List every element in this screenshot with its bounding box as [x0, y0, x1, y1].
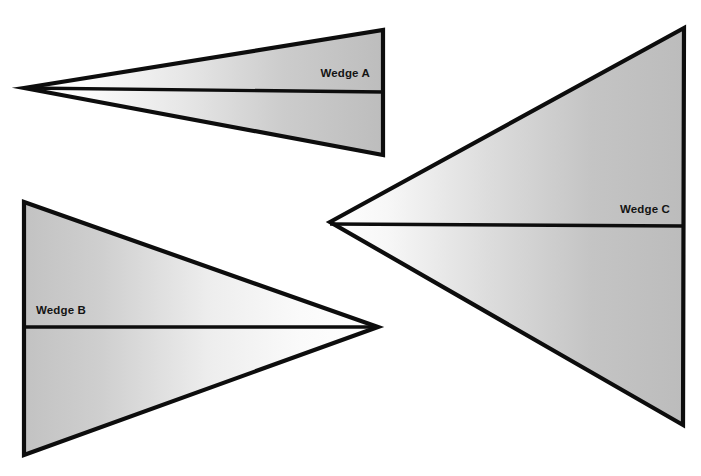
- wedge-c-bisector-line: [330, 224, 683, 226]
- wedge-comparison-figure: Wedge A Wedge B Wedge C: [0, 0, 701, 476]
- wedge-c-label: Wedge C: [620, 203, 670, 215]
- wedge-a-label: Wedge A: [320, 67, 370, 79]
- wedge-b-label: Wedge B: [36, 304, 86, 316]
